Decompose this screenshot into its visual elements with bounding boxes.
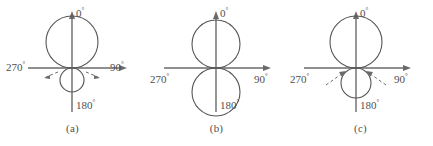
degree-symbol: ° xyxy=(121,60,124,68)
vertical-axis-c xyxy=(353,11,359,112)
degree-symbol: ° xyxy=(23,60,26,68)
degree-symbol: ° xyxy=(93,98,96,106)
axis-label-270-c: 270° xyxy=(290,73,309,85)
axis-label-0-a: 0° xyxy=(76,7,84,19)
axis-label-90-a: 90° xyxy=(110,61,124,73)
degree-symbol: ° xyxy=(307,72,310,80)
polar-plot-panel-b: 270° 90° 0° 180° (b) xyxy=(144,0,289,146)
axis-label-0-b: 0° xyxy=(220,7,228,19)
polar-plot-panel-a: 270° 90° 0° 180° (a) xyxy=(0,0,145,146)
degree-symbol: ° xyxy=(377,98,380,106)
degree-symbol: ° xyxy=(226,6,229,14)
dashed-arrow-left-a xyxy=(44,72,58,79)
dashed-arrow-right-c xyxy=(366,71,386,85)
axis-label-90-c: 90° xyxy=(394,73,408,85)
axis-label-180-b: 180° xyxy=(220,99,239,111)
degree-symbol: ° xyxy=(366,6,369,14)
axis-label-270-a: 270° xyxy=(6,61,25,73)
panel-caption-a: (a) xyxy=(0,122,145,134)
polar-plot-panel-c: 270° 90° 0° 180° (c) xyxy=(288,0,433,146)
vertical-axis-a xyxy=(69,11,75,112)
axis-label-270-b: 270° xyxy=(150,73,169,85)
degree-symbol: ° xyxy=(237,98,240,106)
dashed-arrow-left-c xyxy=(326,71,346,85)
axis-label-0-c: 0° xyxy=(360,7,368,19)
axis-label-90-b: 90° xyxy=(254,73,268,85)
radiation-pattern-figure: 270° 90° 0° 180° (a) 270° xyxy=(0,0,433,146)
degree-symbol: ° xyxy=(405,72,408,80)
degree-symbol: ° xyxy=(167,72,170,80)
vertical-axis-b xyxy=(213,11,219,112)
axis-label-180-a: 180° xyxy=(76,99,95,111)
panel-caption-c: (c) xyxy=(288,122,433,134)
degree-symbol: ° xyxy=(82,6,85,14)
degree-symbol: ° xyxy=(265,72,268,80)
axis-label-180-c: 180° xyxy=(360,99,379,111)
panel-caption-b: (b) xyxy=(144,122,289,134)
dashed-arrow-right-a xyxy=(86,72,100,79)
